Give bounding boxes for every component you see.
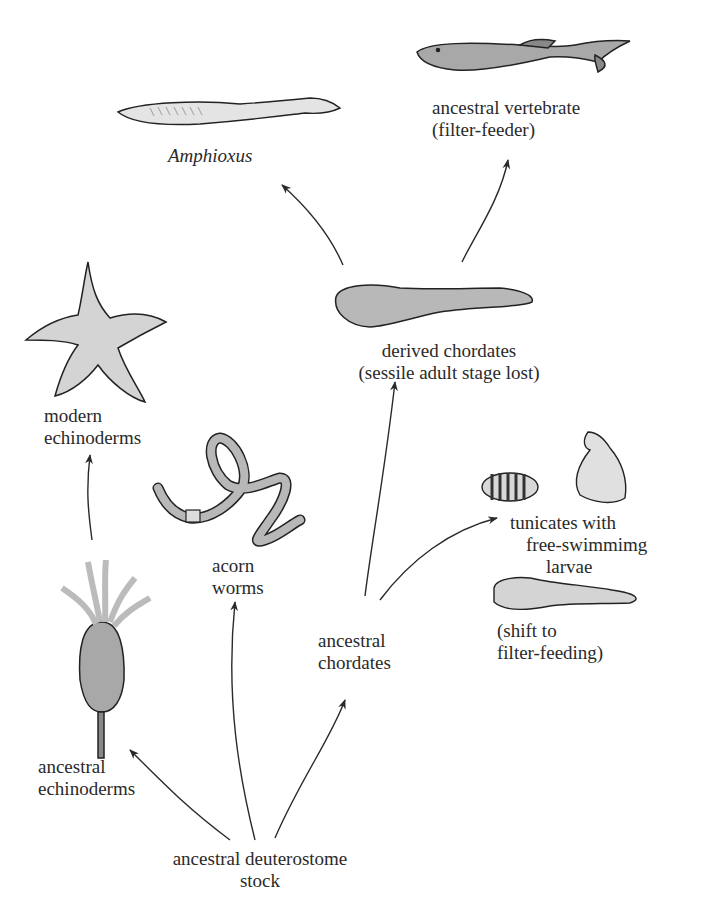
label-ancestral-chordates: ancestral chordates: [318, 630, 391, 674]
ancestral-echinoderm-illustration: [62, 560, 150, 758]
arrow-root-to-ancestral-chordates: [275, 700, 345, 838]
derived-chordate-illustration: [336, 285, 533, 327]
label-ancestral-deuterostome-stock: ancestral deuterostome stock: [140, 848, 380, 892]
acorn-worm-illustration: [158, 438, 300, 541]
tunicate-larva-illustration: [494, 578, 636, 610]
tree-arrows: [88, 160, 508, 840]
label-modern-echinoderms: modern echinoderms: [44, 405, 141, 449]
arrow-root-to-acorn-worms: [232, 602, 255, 840]
label-tunicates: tunicates with free-swimmimg larvae: [510, 512, 647, 578]
tunicate-adult-striped-illustration: [482, 473, 538, 501]
label-ancestral-echinoderms: ancestral echinoderms: [38, 756, 135, 800]
label-tunicate-shift: (shift to filter-feeding): [497, 620, 603, 664]
label-acorn-worms: acorn worms: [212, 555, 264, 599]
ancestral-vertebrate-illustration: [417, 40, 630, 72]
amphioxus-illustration: [118, 98, 340, 125]
arrow-derived-to-vertebrate: [462, 160, 508, 262]
starfish-illustration: [26, 262, 166, 402]
label-derived-chordates: derived chordates (sessile adult stage l…: [340, 340, 558, 384]
tunicate-adult-sac-illustration: [576, 432, 625, 502]
arrow-ancestral-chordates-to-tunicates: [380, 518, 497, 600]
arrow-root-to-ancestral-echinoderms: [130, 750, 230, 840]
label-ancestral-vertebrate: ancestral vertebrate (filter-feeder): [432, 97, 580, 141]
arrow-ancestral-chordates-to-derived: [365, 382, 395, 596]
arrow-derived-to-amphioxus: [282, 185, 343, 265]
label-amphioxus: Amphioxus: [168, 145, 252, 167]
arrow-ancestral-echinoderms-to-modern: [88, 455, 92, 540]
